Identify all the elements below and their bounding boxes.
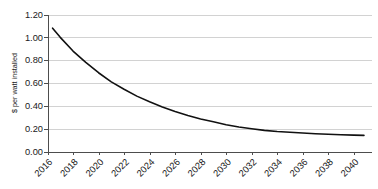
y-tick-label: 0.00 xyxy=(25,147,43,157)
y-tick-label: 0.60 xyxy=(25,78,43,88)
y-axis-title: $ per watt installed xyxy=(10,53,19,113)
line-chart: 0.000.200.400.600.801.001.20 20162018202… xyxy=(0,0,378,189)
y-tick-label: 1.20 xyxy=(25,10,43,20)
chart-background xyxy=(0,0,378,189)
y-tick-label: 0.80 xyxy=(25,55,43,65)
y-tick-label: 0.20 xyxy=(25,124,43,134)
chart-container: 0.000.200.400.600.801.001.20 20162018202… xyxy=(0,0,378,189)
y-tick-label: 1.00 xyxy=(25,33,43,43)
y-tick-label: 0.40 xyxy=(25,101,43,111)
